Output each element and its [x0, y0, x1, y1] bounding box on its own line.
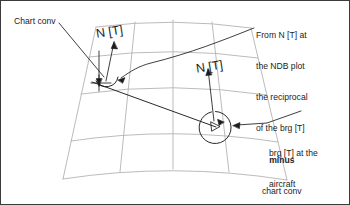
callout-ndb-line-2: the NDB plot — [256, 61, 308, 71]
callout-ndb-line-1: From N [T] at — [256, 30, 308, 40]
parallel-bottom — [63, 171, 287, 180]
leader-bearing-callout-head — [233, 123, 240, 129]
leader-ndb-callout — [121, 28, 254, 78]
leader-ndb-callout-head — [118, 78, 125, 83]
north-arrow-left-head — [111, 42, 117, 49]
bearing-circle — [199, 112, 231, 144]
label-chart-conv: Chart conv — [14, 16, 56, 26]
parallel-4 — [71, 134, 278, 142]
diagram-canvas: Chart conv From N [T] at the NDB plot th… — [0, 0, 350, 205]
callout-bearing-line-2: aircraft — [269, 179, 318, 189]
parallel-3 — [81, 88, 267, 95]
meridian-left-edge — [63, 27, 96, 179]
callout-ndb-line-3: the reciprocal — [256, 92, 308, 102]
callout-bearing-line-1: brg [T] at the — [269, 148, 318, 158]
chart-graticule — [63, 20, 287, 180]
callout-bearing-at-aircraft: brg [T] at the aircraft — [269, 127, 318, 205]
meridian-4 — [212, 22, 229, 172]
